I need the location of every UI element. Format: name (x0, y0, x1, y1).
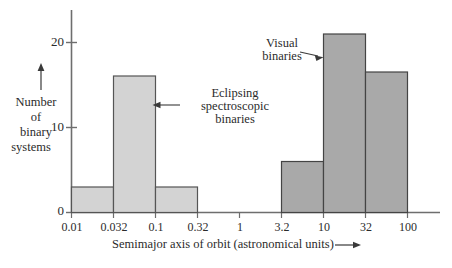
x-tick-label-100: 100 (382, 221, 434, 234)
bar-3.2-10 (282, 162, 324, 213)
y-axis-title-line-1: Number (2, 95, 70, 109)
bar-10-32 (324, 34, 366, 213)
y-tick-label-20: 20 (38, 35, 64, 49)
annotation-eclipsing-line-3: binaries (183, 112, 287, 126)
right-arrow-icon-xaxis (335, 242, 361, 249)
bar-0.1-0.32 (156, 187, 198, 213)
x-axis-title: Semimajor axis of orbit (astronomical un… (112, 238, 334, 252)
y-tick-label-0: 0 (50, 204, 64, 218)
series-eclipsing-spectroscopic-binaries (72, 76, 198, 213)
y-axis-title-line-4: systems (0, 140, 62, 154)
bar-0.032-0.1 (114, 76, 156, 213)
bar-32-100 (366, 72, 408, 213)
annotation-visual-line-2: binaries (252, 49, 312, 63)
y-axis-title-line-3: binary (2, 125, 70, 139)
y-axis-title-line-2: of (2, 110, 70, 124)
left-arrow-icon-eclipsing (153, 102, 181, 108)
bar-0.01-0.032 (72, 187, 114, 213)
binary-star-histogram-figure: 20 10 0 Number of binary systems 0.01 0.… (0, 0, 452, 268)
x-tick-marks (72, 213, 408, 219)
up-arrow-icon (38, 63, 45, 90)
